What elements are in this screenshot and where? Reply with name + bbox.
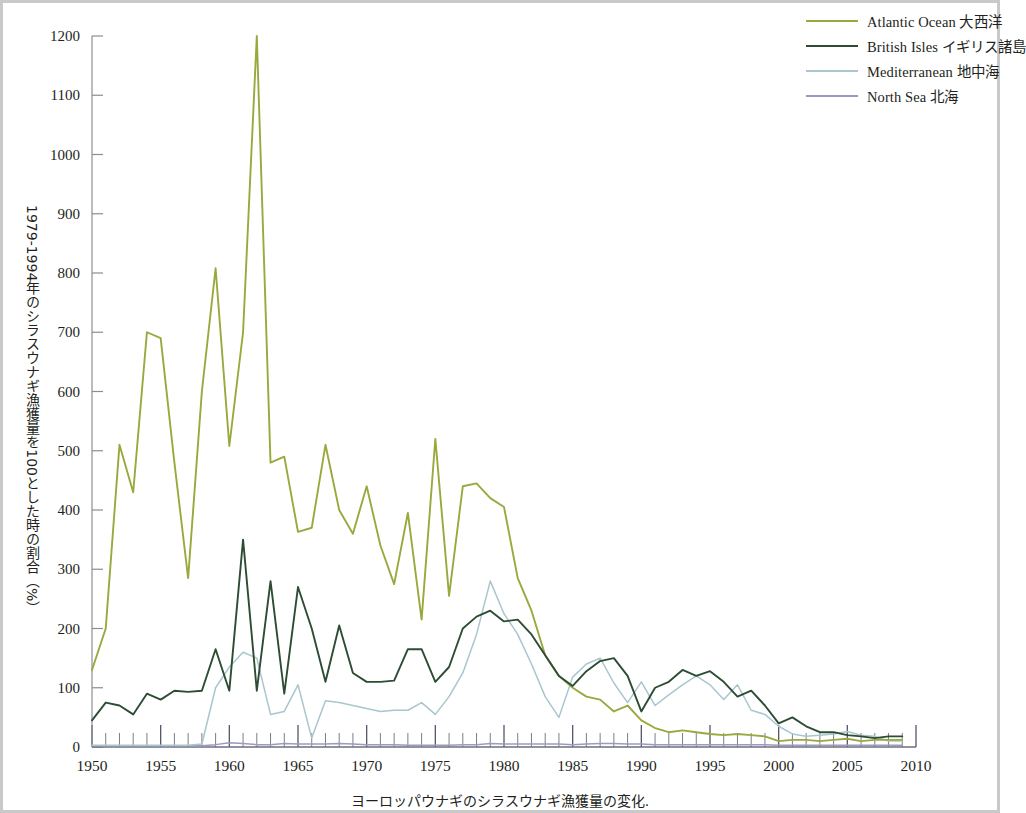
x-tick-label: 1950 (77, 757, 108, 774)
data-series-layer (92, 36, 902, 746)
y-tick-label: 1100 (51, 87, 80, 103)
y-tick-label: 600 (58, 384, 81, 400)
y-tick-label: 400 (58, 502, 81, 518)
y-tick-label: 900 (58, 206, 81, 222)
y-tick-label: 200 (58, 621, 81, 637)
x-tick-label: 1980 (489, 757, 520, 774)
series-line-british-isles (92, 540, 902, 738)
x-tick-label: 1975 (420, 757, 451, 774)
x-tick-label: 2010 (901, 757, 932, 774)
y-tick-label: 500 (58, 443, 81, 459)
y-tick-label: 100 (58, 680, 81, 696)
x-tick-label: 2000 (763, 757, 794, 774)
y-tick-label: 300 (58, 561, 81, 577)
y-tick-label: 1000 (50, 147, 80, 163)
series-line-atlantic-ocean (92, 36, 902, 741)
y-tick-label: 1200 (50, 28, 80, 44)
x-tick-label: 1955 (145, 757, 176, 774)
x-tick-label: 1965 (283, 757, 314, 774)
series-line-mediterranean (92, 581, 902, 745)
y-tick-label: 800 (58, 265, 81, 281)
x-tick-label: 1985 (557, 757, 588, 774)
y-axis-ticks: 0100200300400500600700800900100011001200 (50, 28, 103, 755)
y-tick-label: 700 (58, 324, 81, 340)
x-tick-label: 1995 (695, 757, 726, 774)
y-tick-label: 0 (73, 739, 81, 755)
x-tick-label: 1970 (351, 757, 382, 774)
x-tick-label: 1960 (214, 757, 245, 774)
axis-lines (92, 36, 916, 747)
figure-caption: ヨーロッパウナギのシラスウナギ漁獲量の変化. (0, 790, 1000, 810)
series-line-north-sea (92, 743, 902, 746)
x-tick-label: 1990 (626, 757, 657, 774)
x-tick-label: 2005 (832, 757, 863, 774)
